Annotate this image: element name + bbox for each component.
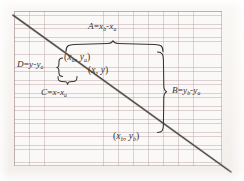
brace-a: [66, 41, 163, 52]
label-d-equation: D=y-ya: [17, 60, 43, 70]
diagram-overlay: [0, 0, 244, 181]
label-c-denominator-sub: a: [64, 92, 67, 98]
point-b-close-paren: ): [136, 130, 139, 141]
brace-c: [58, 77, 77, 85]
label-b-denominator-sub: a: [197, 90, 200, 96]
point-label-generic: (x, y): [88, 65, 108, 77]
label-b-equation: B=yb-ya: [172, 86, 200, 96]
label-d-denominator-sub: a: [41, 64, 44, 70]
point-label-b: (xb, yb): [113, 131, 139, 143]
point-comma: ,: [96, 64, 99, 75]
point-label-a: (xa, ya): [64, 52, 90, 64]
slope-diagram-figure: A=xb-xa B=yb-ya C=x-xa D=y-ya (xa, ya) (…: [0, 0, 244, 181]
label-c-equation: C=x-xa: [41, 88, 67, 98]
point-a-close-paren: ): [87, 51, 90, 62]
label-a-denominator-sub: a: [113, 26, 116, 32]
label-a-equation: A=xb-xa: [88, 22, 116, 32]
point-close-paren: ): [105, 64, 108, 75]
point-a-comma: ,: [75, 51, 78, 62]
label-d-name: D: [17, 59, 24, 69]
point-b-comma: ,: [124, 130, 127, 141]
brace-d: [57, 58, 63, 76]
